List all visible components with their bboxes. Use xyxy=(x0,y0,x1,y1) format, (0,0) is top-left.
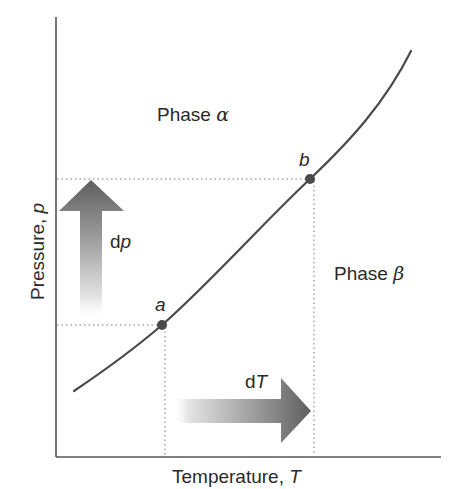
dt-arrow xyxy=(172,378,311,443)
point-a-label: a xyxy=(155,294,166,315)
y-axis-label: Pressure, p xyxy=(27,203,48,300)
phase-alpha-label: Phase α xyxy=(157,103,229,125)
x-axis-label: Temperature, T xyxy=(172,466,302,487)
dp-label: dp xyxy=(110,231,131,252)
phase-boundary-curve xyxy=(74,51,411,391)
point-b-label: b xyxy=(299,149,310,170)
phase-beta-label: Phase β xyxy=(334,262,404,284)
phase-boundary-diagram: Phase α Phase β a b dp dT Temperature, T… xyxy=(0,0,457,489)
point-b-marker xyxy=(305,174,315,184)
dt-label: dT xyxy=(245,371,269,392)
point-a-marker xyxy=(157,320,167,330)
